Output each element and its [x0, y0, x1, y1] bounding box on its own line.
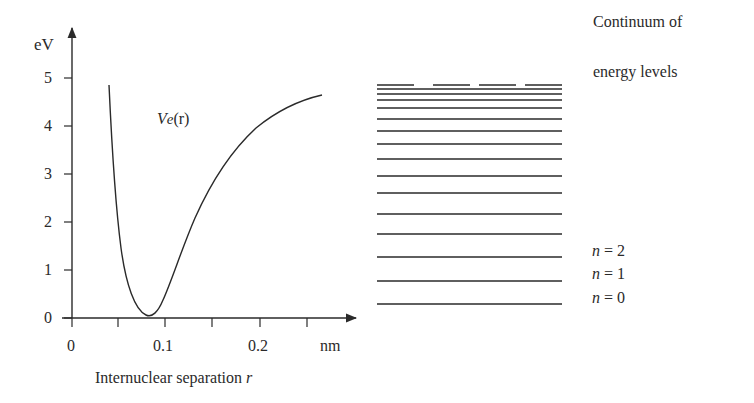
label-n2: n = 2 — [592, 243, 625, 259]
continuum-label-line2: energy levels — [593, 64, 678, 80]
curve-label: Ve(r) — [157, 111, 189, 127]
y-tick-label-3: 3 — [44, 166, 52, 182]
continuum-label-line1: Continuum of — [593, 14, 682, 30]
x-axis-title-var: r — [246, 369, 252, 386]
x-ticks — [72, 318, 307, 327]
energy-levels — [377, 89, 562, 304]
y-tick-label-4: 4 — [44, 118, 52, 134]
x-axis-unit: nm — [320, 338, 340, 354]
y-ticks — [64, 78, 72, 318]
potential-curve — [109, 85, 322, 316]
y-axis-unit: eV — [34, 36, 54, 53]
potential-diagram — [0, 0, 754, 403]
x-axis-title: Internuclear separation r — [95, 370, 252, 386]
x-tick-label-0: 0 — [67, 338, 75, 354]
y-tick-label-0: 0 — [44, 310, 52, 326]
y-tick-label-1: 1 — [44, 262, 52, 278]
x-tick-label-0.2: 0.2 — [248, 338, 268, 354]
y-tick-label-5: 5 — [44, 70, 52, 86]
label-n0: n = 0 — [592, 290, 625, 306]
x-tick-label-0.1: 0.1 — [153, 338, 173, 354]
x-axis-title-text: Internuclear separation — [95, 369, 242, 386]
y-tick-label-2: 2 — [44, 214, 52, 230]
label-n1: n = 1 — [592, 266, 625, 282]
